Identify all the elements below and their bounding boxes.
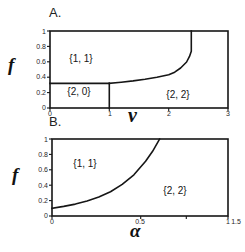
figure-root: A. 1 0.8 0.6 0.4 0.2 0 0 1 2 3 f ν {1, 1… [0,0,245,252]
panel-b-plot [0,0,245,252]
panel-b-axes-frame [52,139,228,216]
panel-b-boundary-curve [52,139,160,208]
